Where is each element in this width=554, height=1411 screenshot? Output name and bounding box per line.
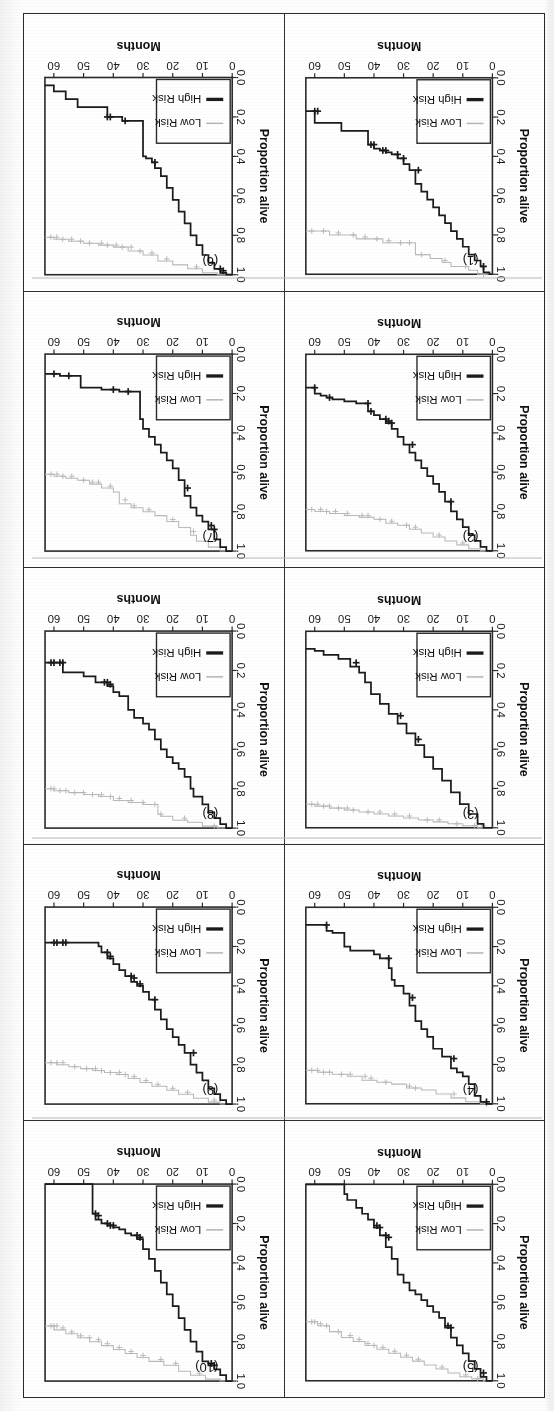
x-tick-label: 60 [308,613,321,625]
survival-plot: 0102030405060Months0.00.20.40.60.81.0Pro… [24,14,284,291]
low-risk-censor-mark [350,232,356,238]
legend-box [417,356,490,420]
x-tick-label: 20 [166,59,179,71]
low-risk-censor-mark [413,1086,419,1092]
x-tick-label: 0 [229,336,235,348]
high-risk-censor-mark [400,155,407,162]
survival-panel-4: 0102030405060Months0.00.20.40.60.81.0Pro… [284,844,544,1121]
y-tick-label: 0.8 [235,504,247,520]
legend-label-high-risk: High Risk [152,93,201,105]
low-risk-censor-mark [122,1072,128,1078]
low-risk-censor-mark [365,809,371,815]
panel-index-label: (8) [202,807,218,822]
x-tick-label: 40 [368,1166,381,1178]
legend-label-low-risk: Low Risk [155,1224,202,1236]
y-tick-label: 0.6 [495,187,507,203]
low-risk-censor-mark [48,1323,54,1329]
x-tick-label: 10 [456,60,469,72]
low-risk-censor-mark [90,792,96,798]
legend-label-low-risk: Low Risk [415,671,462,683]
legend-label-low-risk: Low Risk [155,117,202,129]
high-risk-censor-mark [448,498,455,505]
y-tick-label: 0.4 [235,978,247,995]
x-tick-label: 10 [456,890,469,902]
panel-index-label: (6) [202,253,218,268]
survival-panel-6: 0102030405060Months0.00.20.40.60.81.0Pro… [24,14,284,291]
x-tick-label: 30 [137,59,150,71]
y-tick-label: 0.6 [495,1018,507,1034]
x-tick-label: 10 [196,613,209,625]
x-tick-label: 40 [368,60,381,72]
x-tick-label: 0 [229,1166,235,1178]
legend-label-high-risk: High Risk [413,647,462,659]
legend-label-low-risk: Low Risk [415,1224,462,1236]
low-risk-censor-mark [309,228,315,234]
x-tick-label: 20 [166,890,179,902]
high-risk-censor-mark [323,922,330,929]
y-tick-label: 0.0 [235,69,247,85]
y-axis-label: Proportion alive [517,1235,531,1329]
y-tick-label: 0.2 [495,939,507,955]
legend-box [417,633,490,697]
x-axis-label: Months [377,1146,421,1160]
panel-index-label: (7) [202,530,218,545]
low-risk-censor-mark [309,1319,315,1325]
high-risk-censor-mark [65,373,72,380]
x-tick-label: 30 [397,337,410,349]
y-tick-label: 0.0 [495,69,507,85]
y-tick-label: 0.2 [235,662,247,678]
low-risk-censor-mark [424,817,430,823]
x-tick-label: 20 [427,60,440,72]
legend-label-high-risk: High Risk [152,923,201,935]
low-risk-censor-mark [309,1068,315,1074]
low-risk-censor-mark [398,240,404,246]
y-tick-label: 0.6 [235,465,247,481]
x-tick-label: 60 [47,59,60,71]
survival-plot: 0102030405060Months0.00.20.40.60.81.0Pro… [24,1121,284,1397]
legend-label-low-risk: Low Risk [415,947,462,959]
low-risk-censor-mark [60,474,66,480]
x-tick-label: 30 [137,890,150,902]
x-tick-label: 50 [77,59,90,71]
x-tick-label: 10 [196,1166,209,1178]
y-tick-label: 1.0 [495,266,507,282]
y-tick-label: 0.8 [495,504,507,520]
x-tick-label: 20 [427,613,440,625]
x-tick-label: 50 [338,1166,351,1178]
legend-label-low-risk: Low Risk [155,947,202,959]
y-tick-label: 0.0 [235,900,247,916]
low-risk-censor-mark [451,1092,457,1098]
panel-index-label: (10) [195,1360,218,1375]
x-tick-label: 50 [338,613,351,625]
y-tick-label: 0.0 [495,1176,507,1192]
x-axis-label: Months [116,869,160,883]
x-axis-label: Months [116,315,160,329]
legend-box [156,633,230,697]
y-tick-label: 0.8 [495,1334,507,1350]
high-risk-censor-mark [385,955,392,962]
x-axis-label: Months [116,592,160,606]
x-tick-label: 40 [107,890,120,902]
legend-label-high-risk: High Risk [413,924,462,936]
y-tick-label: 0.4 [495,978,507,995]
x-tick-label: 60 [308,1166,321,1178]
low-risk-censor-mark [350,807,356,813]
x-tick-label: 40 [368,613,381,625]
y-tick-label: 0.8 [495,227,507,243]
low-risk-censor-mark [63,788,69,794]
low-risk-censor-mark [327,1070,333,1076]
y-tick-label: 0.8 [495,780,507,796]
x-tick-label: 20 [166,613,179,625]
x-axis-label: Months [377,592,421,606]
x-tick-label: 60 [48,336,61,348]
low-risk-censor-mark [454,821,460,827]
low-risk-censor-mark [48,1060,54,1066]
survival-panel-grid: 0102030405060Months0.00.20.40.60.81.0Pro… [24,14,544,1397]
x-tick-label: 0 [489,60,495,72]
y-tick-label: 0.6 [235,187,247,203]
y-axis-label: Proportion alive [517,128,531,222]
low-risk-censor-mark [321,1070,327,1076]
x-tick-label: 30 [137,613,150,625]
y-tick-label: 0.0 [235,346,247,362]
x-tick-label: 40 [107,1166,120,1178]
